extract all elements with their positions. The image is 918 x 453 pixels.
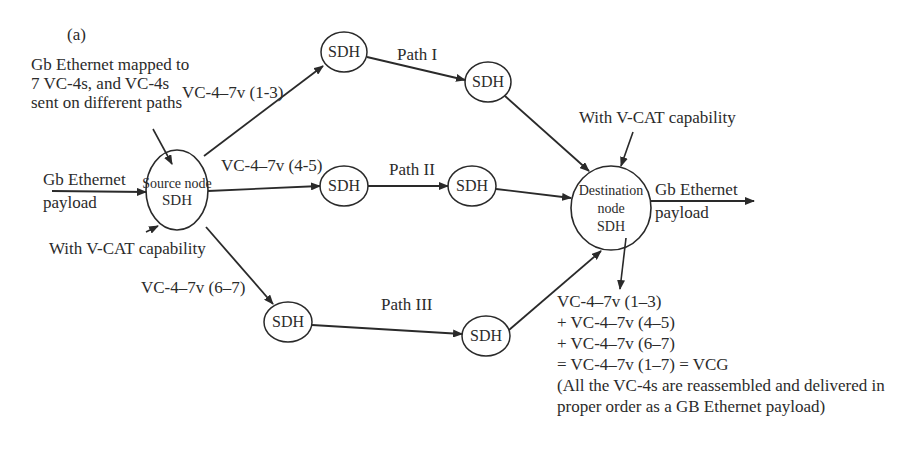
reassembly-line-5: (All the VC-4s are reassembled and deliv… <box>557 375 885 396</box>
edge-path3 <box>312 325 462 334</box>
mapping-note-line-2: 7 VC-4s, and VC-4s <box>31 74 169 94</box>
edge-label-path3: Path III <box>381 295 432 315</box>
destination-node-label-line-1: Destination <box>571 182 651 199</box>
reassembly-line-2: + VC-4–7v (4–5) <box>557 312 675 333</box>
destination-node-label-line-2: node <box>571 200 651 217</box>
output-label-line-1: Gb Ethernet <box>655 180 738 200</box>
input-arrow <box>52 191 146 192</box>
destination-node-label-line-3: SDH <box>571 218 651 235</box>
edge-label-vc-1-3: VC-4–7v (1-3) <box>182 83 284 103</box>
input-label-line-1: Gb Ethernet <box>43 170 126 190</box>
mapping-note-line-3: sent on different paths <box>31 93 182 113</box>
mapping-note-line-1: Gb Ethernet mapped to <box>31 55 189 75</box>
sdh-path2-b-label: SDH <box>448 177 496 195</box>
input-label-line-2: payload <box>43 193 97 213</box>
edge-label-vc-4-5: VC-4–7v (4-5) <box>221 156 323 176</box>
edge-label-path2: Path II <box>389 160 435 180</box>
sdh-path3-a-label: SDH <box>264 313 312 331</box>
edge-source-to-path1 <box>204 66 323 156</box>
output-label-line-2: payload <box>655 203 709 223</box>
reassembly-line-1: VC-4–7v (1–3) <box>557 291 661 312</box>
reassembly-pointer <box>620 238 626 289</box>
sdh-path2-a-label: SDH <box>320 177 368 195</box>
reassembly-line-3: + VC-4–7v (6–7) <box>557 333 675 354</box>
dest-vcat-label: With V-CAT capability <box>579 108 736 128</box>
edge-path1-to-dest <box>505 96 589 171</box>
source-node-label-line-1: Source node <box>142 175 212 192</box>
reassembly-line-6: proper order as a GB Ethernet payload) <box>557 396 825 417</box>
source-vcat-label: With V-CAT capability <box>49 239 206 259</box>
mapping-note-pointer <box>153 129 172 164</box>
edge-label-path1: Path I <box>397 45 437 65</box>
dest-vcat-pointer <box>621 132 633 166</box>
reassembly-line-4: = VC-4–7v (1–7) = VCG <box>557 354 729 375</box>
sdh-path1-b-label: SDH <box>464 73 512 91</box>
edge-source-to-path2 <box>208 186 320 191</box>
source-vcat-pointer <box>146 226 158 232</box>
source-node-label-line-2: SDH <box>142 192 212 209</box>
edge-path2-to-dest <box>496 189 571 198</box>
edge-label-vc-6-7: VC-4–7v (6–7) <box>141 278 245 298</box>
figure-label: (a) <box>67 25 86 45</box>
sdh-path1-a-label: SDH <box>320 43 368 61</box>
sdh-path3-b-label: SDH <box>462 327 510 345</box>
